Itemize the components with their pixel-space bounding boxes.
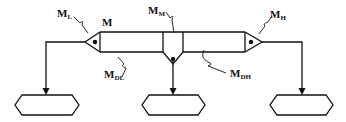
output-hexagon-center [142,95,205,115]
leader-mm [166,12,174,33]
flow-line-right [262,42,302,92]
left-nozzle-dot [93,40,97,44]
right-nozzle-dot [249,40,253,44]
arrow-down-icon [170,88,177,95]
leader-ml [74,17,88,33]
label-mdl: MDL [104,68,124,82]
main-body [100,32,245,52]
flow-left [43,42,86,95]
label-mdh: MDH [230,67,251,81]
output-hexagon-right [270,95,333,115]
right-nozzle [245,32,262,52]
left-nozzle [85,32,100,52]
label-m: M [102,16,113,28]
label-mh: MH [270,8,286,22]
arrow-down-icon [299,88,306,95]
flow-line-left [46,42,85,92]
right-nozzle-cone [245,32,262,52]
output-hexagon-left [15,95,79,115]
flow-right [262,42,306,95]
label-mm: MM [148,4,165,18]
label-ml: ML [57,7,72,21]
left-nozzle-cone [85,32,100,52]
leader-mdh [203,50,226,73]
flow-center [170,59,177,95]
mixer-diagram: ML M MM MH MDL MDH [0,0,346,122]
arrow-down-icon [43,88,50,95]
